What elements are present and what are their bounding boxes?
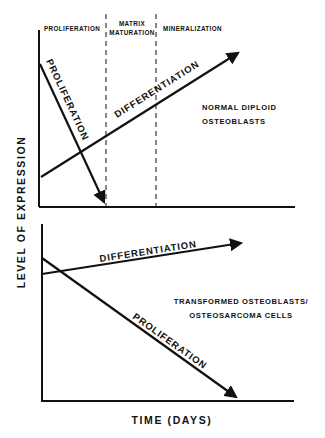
top-cell-type-line1: NORMAL DIPLOID <box>202 103 277 112</box>
top-proliferation-label: PROLIFERATION <box>44 57 91 142</box>
bottom-panel: DIFFERENTIATION PROLIFERATION TRANSFORME… <box>42 224 309 402</box>
phase-label-matrix: MATRIX <box>119 20 145 27</box>
top-proliferation-arrow <box>40 64 104 202</box>
osteoblast-expression-diagram: PROLIFERATION MATRIX MATURATION MINERALI… <box>0 0 325 438</box>
phase-label-proliferation: PROLIFERATION <box>44 25 100 32</box>
top-differentiation-label: DIFFERENTIATION <box>112 58 201 120</box>
phase-label-mineralization: MINERALIZATION <box>163 25 222 32</box>
top-cell-type-line2: OSTEOBLASTS <box>202 117 266 126</box>
bottom-differentiation-label: DIFFERENTIATION <box>99 238 198 264</box>
phase-label-maturation: MATURATION <box>109 29 154 36</box>
top-panel: PROLIFERATION MATRIX MATURATION MINERALI… <box>39 14 295 207</box>
bottom-cell-type-line1: TRANSFORMED OSTEOBLASTS/ <box>174 297 309 306</box>
bottom-cell-type-line2: OSTEOSARCOMA CELLS <box>189 311 292 320</box>
bottom-proliferation-arrow <box>42 258 236 397</box>
y-axis-label: LEVEL OF EXPRESSION <box>15 136 27 289</box>
x-axis-label: TIME (DAYS) <box>132 414 213 426</box>
